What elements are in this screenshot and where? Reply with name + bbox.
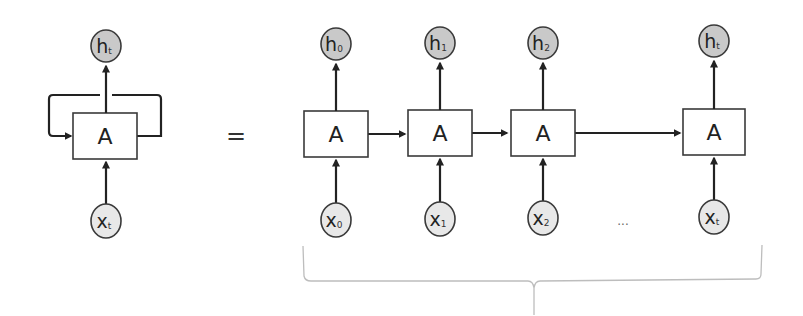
folded-cell-label: A bbox=[97, 124, 112, 149]
unrolled-brace bbox=[303, 245, 762, 315]
rnn-diagram: A ht xt = A h0 x0 bbox=[0, 0, 803, 316]
timestep-0: A h0 x0 bbox=[304, 28, 368, 237]
cell-label-t: A bbox=[706, 120, 721, 145]
equals-sign: = bbox=[226, 122, 246, 150]
unrolled-rnn: A h0 x0 A h1 x1 A h2 x bbox=[303, 25, 762, 315]
cell-label-0: A bbox=[328, 122, 343, 147]
ellipsis: ... bbox=[617, 214, 628, 228]
timestep-t: A ht xt bbox=[683, 25, 745, 234]
timestep-1: A h1 x1 bbox=[408, 27, 472, 236]
cell-label-2: A bbox=[535, 121, 550, 146]
folded-rnn: A ht xt bbox=[49, 30, 161, 238]
timestep-2: A h2 x2 bbox=[511, 27, 575, 235]
cell-label-1: A bbox=[432, 121, 447, 146]
